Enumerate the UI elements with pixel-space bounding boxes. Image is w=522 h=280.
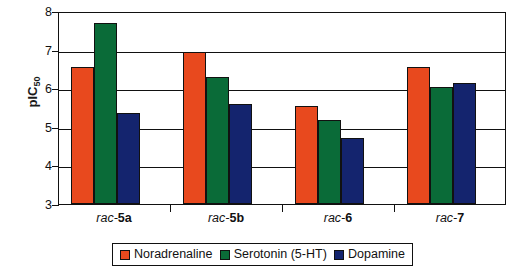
y-tick-label-6: 6 [34,83,52,96]
category-label-rac-5b: rac-5b [170,212,282,225]
bar-rac-5a-noradrenaline[interactable] [71,67,94,204]
y-tick-mark-3 [52,205,59,206]
category-label-number: 6 [345,211,352,225]
category-separator-tick [394,205,395,212]
legend-label-dopamine: Dopamine [348,248,405,261]
bar-rac-6-noradrenaline[interactable] [295,106,318,204]
legend-item[interactable]: Dopamine [334,248,405,261]
legend-swatch-dopamine [334,250,344,260]
bar-rac-5a-dopamine[interactable] [117,113,140,204]
category-label-rac-5a: rac-5a [58,212,170,225]
category-label-prefix: rac- [96,211,118,225]
y-tick-label-8: 8 [34,6,52,19]
category-separator-tick [170,205,171,212]
bar-rac-5b-dopamine[interactable] [229,104,252,204]
bar-rac-5b-noradrenaline[interactable] [183,52,206,204]
category-label-prefix: rac- [436,211,458,225]
legend-item[interactable]: Serotonin (5-HT) [220,248,327,261]
legend-swatch-noradrenaline [120,250,130,260]
category-label-prefix: rac- [324,211,346,225]
chart-legend: Noradrenaline Serotonin (5-HT) Dopamine [112,243,413,266]
bar-rac-5a-serotonin-5-ht[interactable] [94,23,117,204]
bar-chart: pIC50 345678 rac-5arac-5brac-6rac-7 Nora… [0,0,522,280]
y-tick-label-4: 4 [34,160,52,173]
y-tick-label-5: 5 [34,122,52,135]
legend-swatch-serotonin [220,250,230,260]
gridline-7 [59,52,505,53]
bar-rac-7-serotonin-5-ht[interactable] [430,87,453,204]
category-separator-tick [282,205,283,212]
plot-area [58,12,506,205]
legend-label-serotonin: Serotonin (5-HT) [234,248,327,261]
category-label-number: 5a [118,211,132,225]
bar-rac-7-noradrenaline[interactable] [407,67,430,204]
category-label-rac-7: rac-7 [394,212,506,225]
category-label-number: 5b [229,211,244,225]
bar-rac-6-dopamine[interactable] [341,138,364,204]
legend-label-noradrenaline: Noradrenaline [134,248,213,261]
bar-rac-6-serotonin-5-ht[interactable] [318,120,341,204]
category-label-number: 7 [457,211,464,225]
y-tick-label-7: 7 [34,45,52,58]
bar-rac-5b-serotonin-5-ht[interactable] [206,77,229,204]
category-label-prefix: rac- [208,211,230,225]
category-label-rac-6: rac-6 [282,212,394,225]
legend-item[interactable]: Noradrenaline [120,248,213,261]
bar-rac-7-dopamine[interactable] [453,83,476,204]
y-tick-label-3: 3 [34,199,52,212]
